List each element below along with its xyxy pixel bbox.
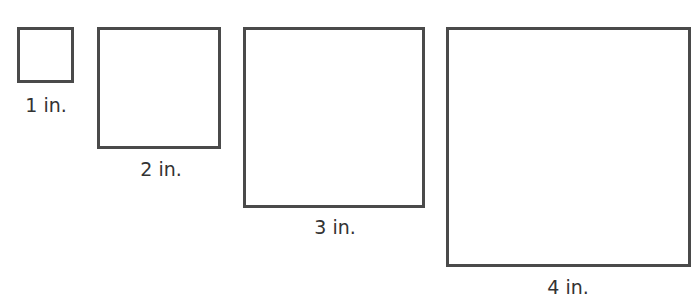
label-1in: 1 in.	[25, 96, 67, 115]
square-2in	[97, 27, 221, 149]
squares-diagram: 1 in. 2 in. 3 in. 4 in.	[0, 0, 700, 300]
label-4in: 4 in.	[547, 278, 589, 297]
label-2in: 2 in.	[140, 160, 182, 179]
square-1in	[17, 27, 74, 83]
label-3in: 3 in.	[314, 218, 356, 237]
square-4in	[446, 27, 691, 267]
square-3in	[243, 27, 425, 208]
